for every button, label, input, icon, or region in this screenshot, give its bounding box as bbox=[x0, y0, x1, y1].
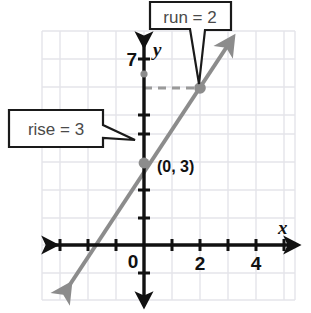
x-tick-label-2: 2 bbox=[195, 253, 206, 274]
coordinate-plane-graph: 7 0 2 4 y x (0, 3) run = 2 rise = 3 bbox=[0, 0, 311, 313]
intercept-point-label: (0, 3) bbox=[157, 158, 194, 175]
rise-callout-label: rise = 3 bbox=[28, 120, 84, 139]
run-callout-label: run = 2 bbox=[163, 8, 216, 27]
y-tick-label-7: 7 bbox=[126, 49, 137, 70]
graph-figure: 7 0 2 4 y x (0, 3) run = 2 rise = 3 bbox=[0, 0, 311, 313]
point-y-axis-marker bbox=[140, 70, 147, 77]
x-axis-label: x bbox=[277, 217, 288, 238]
x-tick-label-4: 4 bbox=[251, 253, 262, 274]
x-tick-label-0: 0 bbox=[128, 251, 139, 272]
y-axis-label: y bbox=[151, 39, 162, 60]
point-0-3 bbox=[139, 158, 150, 169]
